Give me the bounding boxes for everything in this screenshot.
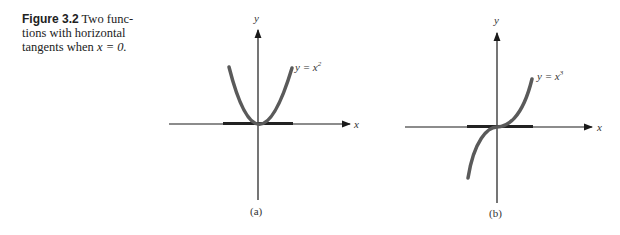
curve-label-a: y = x2 xyxy=(294,60,322,73)
y-axis-label-b: y xyxy=(493,14,499,26)
figure-graphs: y x y = x2 (a) y x y = x3 (b) xyxy=(0,0,620,235)
curve-label-b: y = x3 xyxy=(536,69,564,82)
x-axis-label-b: x xyxy=(596,121,602,133)
y-axis-label-a: y xyxy=(253,12,259,24)
graph-b: y x y = x3 (b) xyxy=(405,14,602,220)
parabola-curve xyxy=(229,67,292,124)
graph-a: y x y = x2 (a) xyxy=(169,12,359,218)
x-axis-label-a: x xyxy=(353,118,359,130)
sublabel-b: (b) xyxy=(489,207,502,220)
sublabel-a: (a) xyxy=(250,205,263,218)
cubic-curve xyxy=(468,79,532,178)
